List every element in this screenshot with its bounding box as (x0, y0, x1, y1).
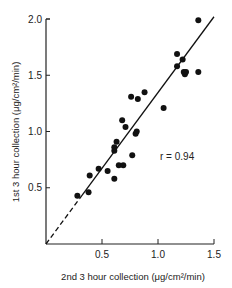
y-axis-label: 1st 3 hour collection (μg/cm²/min) (10, 62, 21, 203)
x-axis-label: 2nd 3 hour collection (μg/cm²/min) (61, 271, 205, 282)
data-point (86, 189, 92, 195)
data-point (74, 193, 80, 199)
data-points (74, 17, 201, 199)
data-point (195, 17, 201, 23)
data-point (114, 139, 120, 145)
y-tick-label: 2.0 (28, 14, 42, 25)
x-tick-label: 1.0 (151, 249, 165, 260)
data-point (111, 176, 117, 182)
y-tick-label: 0.5 (28, 182, 42, 193)
data-point (174, 51, 180, 57)
y-tick-label: 1.5 (28, 70, 42, 81)
data-point (135, 96, 141, 102)
regression-line (46, 17, 214, 244)
data-point (180, 57, 186, 63)
data-point (128, 94, 134, 100)
correlation-annotation: r = 0.94 (160, 151, 195, 162)
data-point (195, 69, 201, 75)
y-tick-label: 1.0 (28, 126, 42, 137)
data-point (129, 152, 135, 158)
data-point (111, 148, 117, 154)
data-point (174, 63, 180, 69)
data-point (105, 168, 111, 174)
data-point (87, 172, 93, 178)
x-tick-label: 0.5 (95, 249, 109, 260)
data-point (123, 124, 129, 130)
data-point (120, 162, 126, 168)
data-point (161, 105, 167, 111)
data-point (119, 117, 125, 123)
scatter-chart: 0.51.01.50.51.01.52.0 r = 0.94 2nd 3 hou… (0, 0, 232, 288)
x-tick-label: 1.5 (207, 249, 221, 260)
data-point (142, 89, 148, 95)
data-point (96, 166, 102, 172)
data-point (183, 69, 189, 75)
data-point (133, 131, 139, 137)
